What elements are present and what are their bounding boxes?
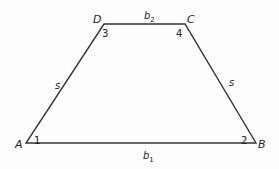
vertex-label-b: B — [258, 138, 266, 151]
diagram-svg: ABCD 1234 b1b2ss — [0, 0, 279, 169]
vertex-label-a: A — [14, 138, 23, 151]
angle-label-4: 4 — [176, 28, 182, 39]
angle-label-3: 3 — [102, 28, 108, 39]
vertex-label-d: D — [93, 13, 101, 26]
side-label-b2-1: b2 — [144, 10, 155, 24]
trapezoid-outline — [26, 24, 256, 143]
trapezoid-diagram: ABCD 1234 b1b2ss — [0, 0, 279, 169]
angle-label-2: 2 — [241, 135, 247, 146]
side-label-s-2: s — [55, 80, 60, 91]
side-label-s-3: s — [229, 77, 234, 88]
side-label-b1-0: b1 — [143, 150, 154, 164]
angle-label-1: 1 — [34, 135, 40, 146]
vertex-label-c: C — [187, 13, 195, 26]
